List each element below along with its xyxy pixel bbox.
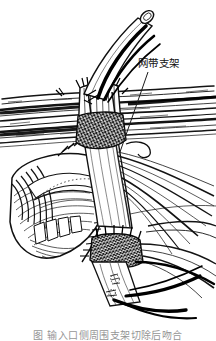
figure-caption: 图 输入口侧周围支架切除后吻合 [0,330,216,341]
annotation-label-mesh-band: 网带支架 [138,57,179,69]
